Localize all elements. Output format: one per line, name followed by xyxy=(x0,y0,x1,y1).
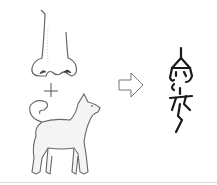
nose-icon xyxy=(28,8,80,80)
oracle-bone-glyph-icon xyxy=(162,46,198,134)
arrow-right-outline-icon xyxy=(118,72,144,98)
dog-icon xyxy=(14,92,104,178)
nose-illustration xyxy=(28,8,80,80)
bottom-divider xyxy=(0,182,217,183)
result-arrow xyxy=(118,72,144,98)
ancient-character xyxy=(162,46,198,134)
dog-illustration xyxy=(14,92,104,178)
